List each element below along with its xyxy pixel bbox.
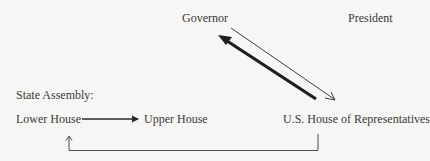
node-upper-house: Upper House [144, 112, 208, 126]
arrow-us-house-to-lower-house [66, 134, 318, 151]
state-assembly-heading: State Assembly: [16, 88, 94, 102]
node-us-house: U.S. House of Representatives [283, 112, 430, 126]
arrow-us-house-to-governor [218, 35, 316, 99]
node-lower-house: Lower House [16, 112, 81, 126]
arrow-governor-to-us-house [231, 28, 335, 100]
node-president: President [348, 11, 393, 25]
arrow-lower-to-upper-house [82, 116, 139, 123]
node-governor: Governor [182, 11, 228, 25]
